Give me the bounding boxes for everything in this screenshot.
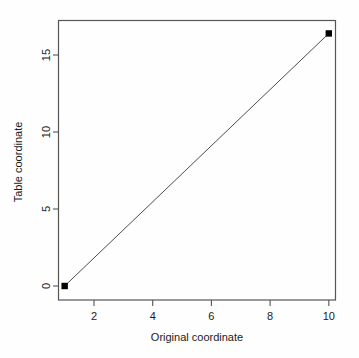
data-point bbox=[61, 283, 67, 289]
x-tick-label-4: 4 bbox=[150, 310, 156, 322]
x-tick-label-8: 8 bbox=[267, 310, 273, 322]
y-tick-label-0: 0 bbox=[40, 283, 52, 289]
x-tick-label-10: 10 bbox=[323, 310, 335, 322]
y-axis-title: Table coordinate bbox=[12, 122, 24, 203]
x-tick-label-6: 6 bbox=[208, 310, 214, 322]
y-tick-label-15: 15 bbox=[40, 49, 52, 61]
y-tick-label-10: 10 bbox=[40, 126, 52, 138]
x-tick-label-2: 2 bbox=[91, 310, 97, 322]
y-tick-label-5: 5 bbox=[40, 206, 52, 212]
chart-background bbox=[0, 0, 359, 358]
x-axis-title: Original coordinate bbox=[151, 331, 243, 343]
chart-container: 0 5 10 15 2 4 6 8 10 Original coordinate bbox=[0, 0, 359, 358]
line-chart: 0 5 10 15 2 4 6 8 10 Original coordinate bbox=[0, 0, 359, 358]
data-point bbox=[326, 30, 332, 36]
